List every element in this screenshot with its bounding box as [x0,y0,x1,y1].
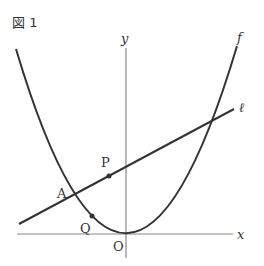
point-p [107,174,112,179]
line-label: ℓ [239,100,245,115]
parabola-label: f [236,30,244,45]
diagram-canvas: y x O f ℓ A P Q [0,0,264,266]
point-p-label: P [101,155,110,170]
y-axis-label: y [120,31,129,46]
point-a-label: A [56,186,67,201]
point-q-label: Q [80,221,91,236]
point-q [90,214,95,219]
origin-label: O [113,239,124,254]
x-axis-label: x [237,227,245,242]
